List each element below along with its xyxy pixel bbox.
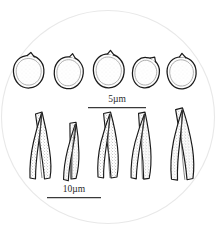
microscopy-figure-plate: 5µm: [0, 0, 216, 235]
scale-bar-10um-label: 10µm: [63, 184, 86, 194]
figure-canvas: 5µm: [0, 0, 216, 235]
scale-bar-5um-label: 5µm: [108, 94, 126, 104]
